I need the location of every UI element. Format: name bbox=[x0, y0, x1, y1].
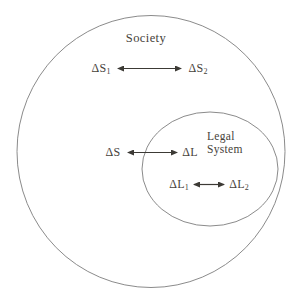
subscript: 1 bbox=[185, 183, 189, 192]
delta-l1-label: ΔL1 bbox=[169, 177, 188, 192]
delta-l2-label: ΔL2 bbox=[229, 177, 248, 192]
society-label: Society bbox=[126, 31, 166, 46]
delta-s2-label: ΔS2 bbox=[189, 61, 208, 76]
legal-system-label-line2: System bbox=[207, 143, 243, 156]
subscript: 2 bbox=[203, 67, 207, 76]
delta-l-label: ΔL bbox=[182, 145, 197, 160]
society-circle bbox=[17, 16, 285, 288]
legal-system-label: Legal System bbox=[207, 130, 243, 156]
subscript: 2 bbox=[245, 183, 249, 192]
subscript: 1 bbox=[106, 67, 110, 76]
delta-s-label: ΔS bbox=[106, 145, 121, 160]
legal-system-label-line1: Legal bbox=[207, 130, 243, 143]
venn-diagram: Society ΔS1 ΔS2 ΔS ΔL Legal System ΔL1 Δ… bbox=[0, 0, 300, 301]
delta-s1-label: ΔS1 bbox=[92, 61, 111, 76]
